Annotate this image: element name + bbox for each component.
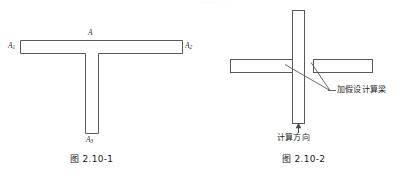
caption-figure-2-10-2: 图 2.10-2 — [282, 155, 325, 164]
figure-2-10-1-geometry — [21, 41, 183, 134]
label-A3-bottom-stem: A3 — [86, 136, 93, 144]
left-beam-rect — [231, 60, 293, 73]
label-A-top: A — [88, 29, 93, 37]
vertical-column-rect — [293, 11, 305, 124]
right-beam-rect — [314, 60, 373, 73]
caption-figure-2-10-1: 图 2.10-1 — [70, 155, 113, 164]
label-A2-right-end: A2 — [185, 42, 192, 50]
label-A1-left-end: A1 — [8, 42, 15, 50]
figure-2-10-2-geometry — [231, 11, 373, 134]
figure-canvas: . . . . . . . . . A — [0, 0, 404, 177]
tee-outline — [21, 41, 183, 134]
annotation-calculation-direction: 计算方向 — [277, 134, 310, 142]
annotation-assumed-calc-beam: 加假设计算梁 — [337, 86, 386, 94]
